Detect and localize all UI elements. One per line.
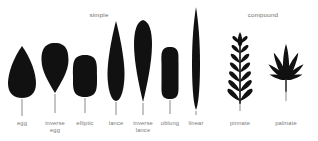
leaf-stem-pinnate <box>240 103 241 111</box>
leaf-label-linear: linear <box>188 120 203 127</box>
leaf-label-line1-pinnate: pinnate <box>230 120 250 126</box>
leaf-linear: linear <box>173 0 219 141</box>
leaf-label-line1-linear: linear <box>188 120 203 126</box>
leaf-stem-oblong <box>170 100 171 114</box>
leaf-stem-inverse-egg <box>55 94 56 113</box>
leaf-pinnate: pinnate <box>217 0 263 141</box>
leaf-stem-palmate <box>286 91 287 101</box>
leaf-blade-palmate <box>266 42 306 92</box>
leaf-label-line1-elliptic: elliptic <box>76 120 93 126</box>
leaf-label-line1-egg: egg <box>17 120 27 126</box>
leaf-label-egg: egg <box>17 120 27 127</box>
leaf-stem-linear <box>196 111 197 115</box>
leaf-palmate: palmate <box>263 0 309 141</box>
leaf-stem-elliptic <box>85 98 86 113</box>
leaf-label-pinnate: pinnate <box>230 120 250 127</box>
leaf-blade-linear <box>190 5 202 112</box>
leaf-stem-egg <box>22 99 23 116</box>
leaf-shape-diagram: simple compound egginverseeggellipticlan… <box>0 0 318 141</box>
leaf-stem-inverse-lance <box>143 103 144 115</box>
leaf-label-palmate: palmate <box>275 120 297 127</box>
leaf-blade-pinnate <box>223 32 257 104</box>
leaf-stem-lance <box>116 102 117 115</box>
leaf-label-line1-palmate: palmate <box>275 120 297 126</box>
leaf-label-elliptic: elliptic <box>76 120 93 127</box>
